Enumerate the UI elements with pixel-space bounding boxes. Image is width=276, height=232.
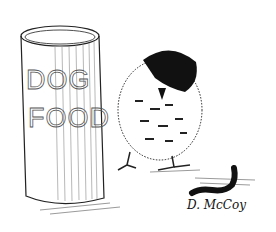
bird (118, 50, 202, 170)
canister-label-food: FOOD (28, 103, 110, 134)
canister-label-dog: DOG (26, 65, 91, 96)
artist-signature: D. McCoy (187, 198, 246, 212)
worm (192, 168, 235, 193)
illustration: DOG FOOD D. McCoy (0, 0, 276, 232)
